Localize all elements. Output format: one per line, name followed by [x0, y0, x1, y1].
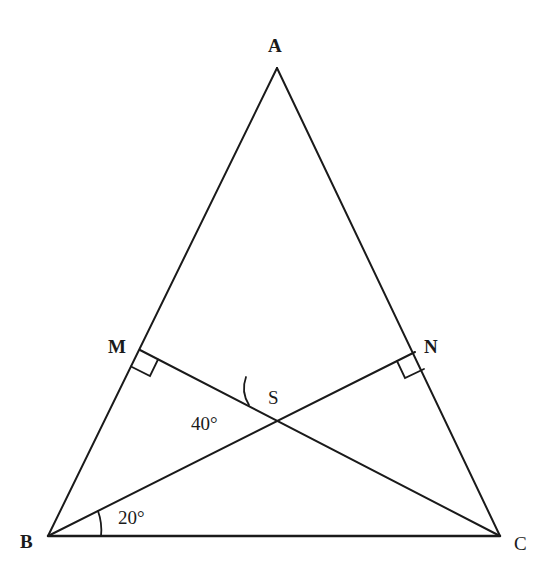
label-b: B [20, 531, 33, 552]
triangle-diagram: A B C M N S 40° 20° [0, 0, 558, 582]
angle-label-s: 40° [191, 413, 218, 434]
label-n: N [424, 336, 438, 357]
angle-arc-b [98, 511, 101, 536]
label-s: S [268, 387, 279, 408]
segment-ac [277, 68, 500, 536]
segment-ab [48, 68, 277, 536]
label-c: C [514, 533, 527, 554]
angle-arc-s [244, 377, 249, 405]
label-m: M [108, 336, 126, 357]
label-a: A [268, 35, 282, 56]
right-angle-mark-m [131, 360, 158, 377]
segment-cm [140, 350, 500, 536]
angle-label-b: 20° [118, 507, 145, 528]
segment-bn [48, 352, 415, 536]
